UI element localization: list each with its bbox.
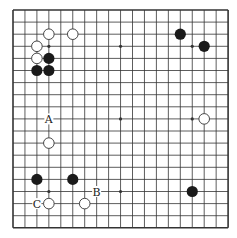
star-point	[119, 117, 122, 120]
white-stone	[32, 53, 43, 64]
white-stone	[199, 114, 210, 125]
white-stone	[44, 198, 55, 209]
star-point	[119, 45, 122, 48]
white-stone	[44, 29, 55, 40]
white-stone	[79, 198, 90, 209]
star-point	[191, 117, 194, 120]
white-stone	[32, 41, 43, 52]
star-point	[47, 190, 50, 193]
star-point	[47, 45, 50, 48]
black-stone	[31, 174, 42, 185]
black-stone	[199, 41, 210, 52]
point-label-b: B	[93, 186, 101, 199]
star-point	[119, 190, 122, 193]
star-point	[191, 45, 194, 48]
black-stone	[31, 65, 42, 76]
black-stone	[43, 53, 54, 64]
black-stone	[43, 65, 54, 76]
go-board: ABC	[0, 0, 237, 238]
white-stone	[44, 138, 55, 149]
point-labels: ABC	[32, 113, 101, 211]
black-stone	[187, 186, 198, 197]
point-label-c: C	[33, 198, 41, 211]
point-label-a: A	[44, 113, 54, 126]
white-stone	[67, 29, 78, 40]
black-stone	[67, 174, 78, 185]
black-stone	[175, 29, 186, 40]
